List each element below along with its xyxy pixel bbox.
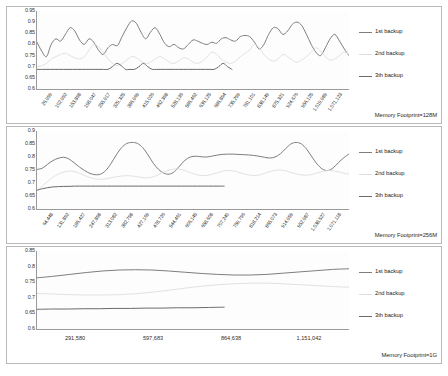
x-tick-label: 759,796 (232, 212, 246, 229)
x-tick-label: 1,071,123 (327, 92, 343, 112)
x-tick-label: 255,917 (97, 92, 111, 109)
legend-label-3th-backup: 3th backup (375, 313, 403, 319)
x-tick-label: 26,999 (41, 92, 53, 107)
x-tick-label: 386,969 (126, 92, 140, 109)
legend-item-2nd-backup: 2nd backup (359, 169, 404, 179)
x-tick-label: 1,038,527 (310, 212, 326, 232)
legend-swatch-3th-backup (359, 316, 372, 317)
legend-item-1st-backup: 1st backup (359, 267, 403, 277)
series-line-3th-backup (37, 63, 232, 69)
x-tick-label: 478,726 (152, 212, 166, 229)
x-tick-label: 818,214 (248, 212, 262, 229)
y-tick-label: 0.7 (28, 295, 35, 300)
chart-panel-1g: 0.850.80.750.70.650.6 291,580597,683864,… (6, 246, 442, 364)
x-tick-label: 544,461 (168, 212, 182, 229)
x-tick-label: 186,427 (72, 212, 86, 229)
y-tick-label: 0.8 (28, 264, 35, 269)
y-axis-2: 0.850.80.750.70.650.6 (9, 251, 35, 329)
x-axis-labels-1: 64,448131,892186,427247,898313,082382,79… (36, 210, 348, 243)
legend-label-3th-backup: 3th backup (375, 73, 403, 79)
y-tick-label: 0.85 (25, 31, 35, 36)
x-tick-label: 247,898 (88, 212, 102, 229)
x-tick-label: 415,026 (141, 92, 155, 109)
plot-area-2 (36, 251, 349, 330)
x-tick-label: 329,325 (112, 92, 126, 109)
legend-item-2nd-backup: 2nd backup (359, 289, 404, 299)
memory-footprint-caption-1: Memory Footprint=256M (375, 233, 437, 239)
chart-panel-256m: 0.90.850.80.750.70.650.6 64,448131,89218… (6, 126, 442, 244)
legend-label-1st-backup: 1st backup (375, 149, 403, 155)
legend-swatch-1st-backup (359, 32, 372, 33)
y-tick-label: 0.8 (28, 154, 35, 159)
y-tick-label: 0.65 (25, 311, 35, 316)
legend-label-2nd-backup: 2nd backup (375, 51, 404, 57)
legend-label-1st-backup: 1st backup (375, 269, 403, 275)
y-tick-label: 0.9 (28, 128, 35, 133)
y-axis-1: 0.90.850.80.750.70.650.6 (9, 131, 35, 209)
memory-footprint-caption-2: Memory Footprint=1G (381, 353, 437, 359)
plot-area-1 (36, 131, 349, 210)
y-tick-label: 0.7 (28, 180, 35, 185)
legend-0: 1st backup 2nd backup 3th backup (359, 21, 441, 91)
x-tick-label: 102,992 (54, 92, 68, 109)
x-tick-label: 952,987 (296, 212, 310, 229)
x-axis-labels-2: 291,580597,683864,6381,151,042 (36, 330, 348, 363)
chart-panel-128m: 0.950.90.850.80.750.70.650.6 26,999102,9… (6, 6, 442, 124)
plot-area-0 (36, 11, 349, 90)
legend-item-1st-backup: 1st backup (359, 147, 403, 157)
y-tick-label: 0.8 (28, 42, 35, 47)
x-tick-label: 864,638 (221, 336, 241, 342)
legend-label-2nd-backup: 2nd backup (375, 171, 404, 177)
y-tick-label: 0.7 (28, 64, 35, 69)
x-tick-label: 427,169 (136, 212, 150, 229)
series-line-1st-backup (37, 142, 349, 174)
y-tick-label: 0.6 (28, 326, 35, 331)
legend-label-1st-backup: 1st backup (375, 29, 403, 35)
x-tick-label: 313,082 (104, 212, 118, 229)
legend-label-3th-backup: 3th backup (375, 193, 403, 199)
y-tick-label: 0.75 (25, 53, 35, 58)
legend-item-3th-backup: 3th backup (359, 311, 403, 321)
x-tick-label: 686,894 (213, 92, 227, 109)
x-tick-label: 528,136 (170, 92, 184, 109)
y-tick-label: 0.9 (28, 19, 35, 24)
legend-swatch-2nd-backup (359, 174, 372, 175)
legend-item-1st-backup: 1st backup (359, 27, 403, 37)
y-tick-label: 0.95 (25, 8, 35, 13)
y-axis-0: 0.950.90.850.80.750.70.650.6 (9, 11, 35, 89)
series-line-2nd-backup (37, 44, 349, 66)
series-line-1st-backup (37, 269, 349, 278)
x-tick-label: 597,683 (143, 336, 163, 342)
x-tick-label: 64,448 (42, 212, 54, 227)
memory-footprint-caption-0: Memory Footprint=128M (375, 113, 437, 119)
series-line-3th-backup (37, 307, 224, 309)
x-tick-label: 382,798 (120, 212, 134, 229)
legend-swatch-3th-backup (359, 76, 372, 77)
series-line-1st-backup (37, 21, 349, 57)
x-tick-label: 586,462 (184, 92, 198, 109)
x-tick-label: 131,892 (56, 212, 70, 229)
x-tick-label: 636,125 (199, 92, 213, 109)
y-tick-label: 0.75 (25, 279, 35, 284)
x-tick-label: 153,898 (68, 92, 82, 109)
y-tick-label: 0.85 (25, 248, 35, 253)
series-line-2nd-backup (37, 169, 349, 190)
x-tick-label: 865,073 (264, 212, 278, 229)
plot-svg-1 (37, 131, 349, 209)
legend-swatch-1st-backup (359, 272, 372, 273)
y-tick-label: 0.85 (25, 141, 35, 146)
legend-swatch-1st-backup (359, 152, 372, 153)
x-tick-label: 781,101 (242, 92, 256, 109)
legend-swatch-3th-backup (359, 196, 372, 197)
x-tick-label: 462,398 (155, 92, 169, 109)
x-tick-label: 1,151,042 (297, 336, 322, 342)
y-tick-label: 0.65 (25, 75, 35, 80)
x-tick-label: 658,608 (200, 212, 214, 229)
x-axis-labels-0: 26,999102,992153,898198,047255,917329,32… (36, 90, 348, 123)
legend-item-3th-backup: 3th backup (359, 71, 403, 81)
legend-label-2nd-backup: 2nd backup (375, 291, 404, 297)
x-tick-label: 838,149 (257, 92, 271, 109)
x-tick-label: 291,580 (65, 336, 85, 342)
y-tick-label: 0.75 (25, 167, 35, 172)
x-tick-label: 735,299 (228, 92, 242, 109)
